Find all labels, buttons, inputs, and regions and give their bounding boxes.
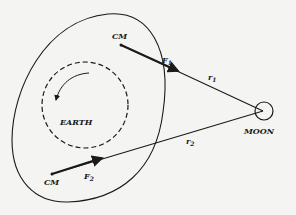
cm-top-label: CM xyxy=(112,31,128,41)
moon-label: MOON xyxy=(243,126,275,136)
earth-moon-diagram: CM CM EARTH MOON F1 F2 r1 r2 xyxy=(0,0,296,215)
r1-label: r1 xyxy=(208,72,216,83)
rotation-arrow-icon xyxy=(56,73,89,100)
f2-label: F2 xyxy=(83,171,94,182)
f1-arrow xyxy=(121,45,178,71)
cm-bottom-point xyxy=(51,173,54,176)
cm-top-point xyxy=(120,44,123,47)
f1-label: F1 xyxy=(161,55,172,66)
moon-circle xyxy=(255,102,273,120)
r2-label: r2 xyxy=(186,136,194,147)
cm-bottom-label: CM xyxy=(44,177,60,187)
f2-arrow xyxy=(52,158,102,174)
earth-circle xyxy=(42,62,128,148)
earth-label: EARTH xyxy=(59,117,93,127)
